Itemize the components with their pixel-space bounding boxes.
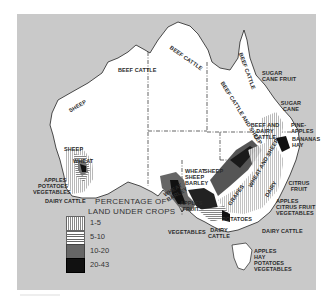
label-apples-fruit: APPLES FRUIT bbox=[180, 200, 202, 212]
label-sheep-sw: SHEEP bbox=[64, 146, 83, 152]
label-potatoes-vic: POTATOES bbox=[222, 216, 252, 222]
label-tasmania: APPLES HAY POTATOES VEGETABLES bbox=[254, 248, 288, 272]
label-bananas-hay: BANANAS HAY bbox=[292, 136, 314, 148]
legend-item: 1-5 bbox=[66, 216, 120, 229]
figure-caption bbox=[20, 294, 60, 296]
legend-swatch-horizontal-lines bbox=[66, 230, 85, 245]
legend-title: PERCENTAGE OF LAND UNDER CROPS bbox=[88, 197, 175, 217]
label-beef-cattle-wa: BEEF CATTLE bbox=[118, 67, 157, 73]
label-sugar-cane-fruit: SUGAR CANE FRUIT bbox=[262, 70, 298, 82]
legend-item: 20-43 bbox=[66, 258, 120, 271]
label-dairy-cattle-vic: DAIRY CATTLE bbox=[206, 227, 232, 239]
legend-swatch-gray bbox=[66, 244, 85, 259]
label-sugar-cane: SUGAR CANE bbox=[278, 100, 304, 112]
label-citrus-fruit: CITRUS FRUIT bbox=[287, 180, 311, 192]
legend-swatch-vertical-lines bbox=[66, 216, 85, 231]
label-pineapples: PINE-APPLES bbox=[291, 122, 313, 134]
label-vegetables-wa: VEGETABLES bbox=[33, 189, 71, 195]
label-apples-citrus-veg: APPLES CITRUS FRUIT VEGETABLES bbox=[276, 198, 318, 216]
legend-item: 5-10 bbox=[66, 230, 120, 243]
legend-item: 10-20 bbox=[66, 244, 120, 257]
label-dairy-wa: DAIRY CATTLE bbox=[45, 198, 86, 204]
label-wheat-wa: WHEAT bbox=[73, 158, 93, 164]
tasmania bbox=[232, 243, 252, 270]
label-wheat-sheep-barley: WHEAT SHEEP BARLEY bbox=[185, 168, 207, 186]
label-dairy-cattle-east: DAIRY CATTLE bbox=[262, 228, 303, 234]
label-vegetables-sa: VEGETABLES bbox=[168, 229, 206, 235]
legend-swatch-black bbox=[66, 258, 85, 273]
